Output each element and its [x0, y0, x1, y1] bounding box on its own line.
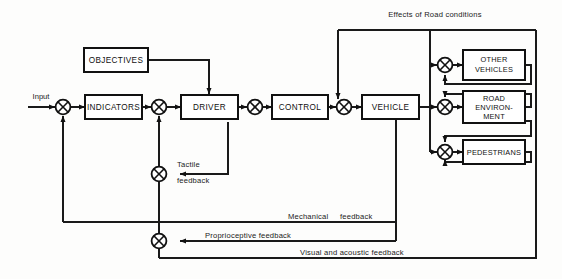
- block-vehicle[interactable]: VEHICLE: [362, 95, 419, 119]
- summing-junction-other-vehicles[interactable]: [438, 58, 453, 73]
- block-pedestrians-label: PEDESTRIANS: [467, 148, 521, 157]
- annotation-visual-and-acoustic-feedback: Visual and acoustic feedback: [300, 248, 404, 257]
- block-objectives-label: OBJECTIVES: [89, 56, 144, 65]
- block-indicators-label: INDICATORS: [87, 103, 140, 112]
- summing-junction-input[interactable]: [56, 100, 71, 115]
- summing-junction-road-environment[interactable]: [438, 100, 453, 115]
- annotation-effects-of-road-conditions: Effects of Road conditions: [388, 10, 481, 19]
- summing-junction-tactile[interactable]: [152, 167, 167, 182]
- block-road-environment-label-line1: ROAD: [483, 94, 505, 103]
- annotation-proprioceptive-feedback: Proprioceptive feedback: [205, 231, 291, 240]
- block-road-environment-label-line3: MENT: [483, 112, 505, 121]
- block-driver[interactable]: DRIVER: [181, 95, 238, 119]
- diagram-page: OBJECTIVES INDICATORS DRIVER CONTROL VEH…: [0, 0, 562, 279]
- block-control-label: CONTROL: [279, 103, 322, 112]
- wire-road-environment-to-pedestrians: [445, 121, 531, 142]
- annotation-tactile-line1: Tactile: [177, 160, 200, 169]
- summing-junction-control-input[interactable]: [248, 100, 263, 115]
- block-vehicle-label: VEHICLE: [372, 103, 410, 112]
- summing-junction-proprioceptive[interactable]: [152, 234, 167, 249]
- wire-objectives-to-driver: [148, 60, 209, 94]
- block-other-vehicles-label-line2: VEHICLES: [475, 65, 513, 74]
- block-other-vehicles[interactable]: OTHER VEHICLES: [463, 50, 525, 80]
- summing-junction-control-output[interactable]: [337, 100, 352, 115]
- block-objectives[interactable]: OBJECTIVES: [84, 48, 148, 72]
- block-driver-label: DRIVER: [193, 103, 226, 112]
- block-diagram-canvas: OBJECTIVES INDICATORS DRIVER CONTROL VEH…: [0, 0, 562, 279]
- annotation-mechanical-feedback: feedback: [340, 212, 372, 221]
- block-road-environment[interactable]: ROAD ENVIRON- MENT: [463, 91, 525, 123]
- block-road-environment-label-line2: ENVIRON-: [475, 103, 513, 112]
- block-other-vehicles-label-line1: OTHER: [481, 55, 508, 64]
- block-indicators[interactable]: INDICATORS: [85, 95, 142, 119]
- annotation-mechanical: Mechanical: [288, 212, 329, 221]
- summing-junction-driver-input[interactable]: [152, 100, 167, 115]
- summing-junction-pedestrians[interactable]: [438, 145, 453, 160]
- block-pedestrians[interactable]: PEDESTRIANS: [463, 140, 525, 164]
- block-control[interactable]: CONTROL: [272, 95, 328, 119]
- input-label: Input: [33, 92, 51, 101]
- summing-junction-layer: [56, 58, 453, 249]
- annotation-tactile-line2: feedback: [177, 176, 209, 185]
